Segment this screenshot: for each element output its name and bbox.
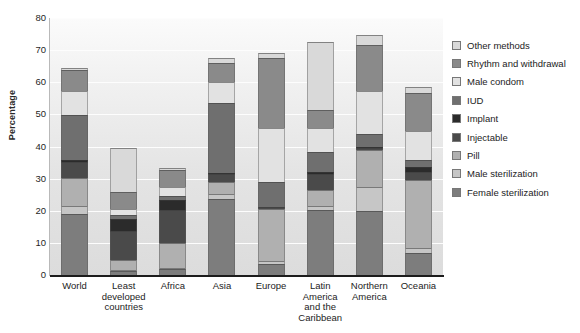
bar-segment xyxy=(307,110,334,128)
bar-segment xyxy=(159,170,186,187)
bar-stack xyxy=(61,18,88,275)
bar-segment xyxy=(405,172,432,180)
legend-label: Pill xyxy=(467,150,480,161)
legend-swatch-icon xyxy=(452,96,461,105)
bar-segment xyxy=(61,214,88,275)
legend-swatch-icon xyxy=(452,133,461,142)
gridline xyxy=(50,211,443,212)
y-tick-label: 70 xyxy=(6,44,46,55)
bar-segment xyxy=(208,103,235,172)
legend-swatch-icon xyxy=(452,169,461,178)
bar-stack xyxy=(307,18,334,275)
bar-stack xyxy=(110,18,137,275)
y-tick-label: 20 xyxy=(6,205,46,216)
bar-segment xyxy=(405,131,432,160)
y-tick-label: 10 xyxy=(6,237,46,248)
bar-segment xyxy=(208,194,235,199)
bar-segment xyxy=(159,268,186,269)
bar-segment xyxy=(307,172,334,174)
x-axis-line xyxy=(50,275,444,277)
y-tick-label: 50 xyxy=(6,108,46,119)
y-tick-label: 80 xyxy=(6,12,46,23)
bar-segment xyxy=(110,270,137,271)
legend-swatch-icon xyxy=(452,59,461,68)
y-tick-label: 30 xyxy=(6,173,46,184)
y-axis-line xyxy=(49,18,50,276)
bar-segment xyxy=(61,178,88,206)
legend-label: Female sterilization xyxy=(467,187,549,198)
bar-segment xyxy=(356,148,383,150)
bar-segment xyxy=(110,192,137,208)
bar-segment xyxy=(356,211,383,275)
stacked-bar-chart: Percentage 01020304050607080 WorldLeastd… xyxy=(0,0,580,333)
bar-segment xyxy=(307,128,334,152)
legend-item[interactable]: Male condom xyxy=(452,73,578,91)
bar-segment xyxy=(405,180,432,247)
bar-segment xyxy=(405,160,432,167)
legend-item[interactable]: Injectable xyxy=(452,128,578,146)
bar-segment xyxy=(356,35,383,45)
bar-segment xyxy=(258,207,285,209)
bar-segment xyxy=(110,215,137,219)
legend-label: IUD xyxy=(467,95,483,106)
gridline xyxy=(50,18,443,19)
x-tick-label: Oceania xyxy=(373,281,463,292)
gridline xyxy=(50,114,443,115)
legend-item[interactable]: Rhythm and withdrawal xyxy=(452,54,578,72)
bar-segment xyxy=(208,173,235,174)
legend-label: Other methods xyxy=(467,40,530,51)
bar-stack xyxy=(356,18,383,275)
bar-stack xyxy=(159,18,186,275)
legend-swatch-icon xyxy=(452,188,461,197)
legend-swatch-icon xyxy=(452,151,461,160)
bar-segment xyxy=(258,209,285,261)
bar-segment xyxy=(61,160,88,163)
bar-segment xyxy=(307,174,334,191)
bar-stack xyxy=(208,18,235,275)
bar-segment xyxy=(405,248,432,253)
legend-item[interactable]: Other methods xyxy=(452,36,578,54)
bar-segment xyxy=(258,261,285,264)
legend-label: Male sterilization xyxy=(467,168,538,179)
gridline xyxy=(50,179,443,180)
bar-segment xyxy=(307,206,334,210)
y-tick-label: 60 xyxy=(6,76,46,87)
bar-segment xyxy=(159,243,186,268)
bar-segment xyxy=(405,87,432,92)
bar-segment xyxy=(258,182,285,207)
bar-segment xyxy=(208,174,235,183)
legend-label: Implant xyxy=(467,113,498,124)
bar-segment xyxy=(307,42,334,110)
bar-stack xyxy=(405,18,432,275)
bar-segment xyxy=(356,45,383,91)
bar-segment xyxy=(159,196,186,201)
bar-segment xyxy=(258,264,285,275)
bar-segment xyxy=(307,190,334,206)
gridline xyxy=(50,82,443,83)
legend-item[interactable]: IUD xyxy=(452,91,578,109)
legend-swatch-icon xyxy=(452,114,461,123)
plot-area xyxy=(50,18,443,275)
legend-label: Male condom xyxy=(467,76,524,87)
bar-segment xyxy=(405,253,432,275)
legend-item[interactable]: Pill xyxy=(452,146,578,164)
bar-segment xyxy=(61,162,88,178)
bar-segment xyxy=(405,93,432,132)
bar-segment xyxy=(356,187,383,211)
gridline xyxy=(50,50,443,51)
bar-segment xyxy=(258,58,285,129)
bar-segment xyxy=(61,68,88,70)
legend-item[interactable]: Male sterilization xyxy=(452,165,578,183)
legend-label: Rhythm and withdrawal xyxy=(467,58,566,69)
y-tick-label: 40 xyxy=(6,141,46,152)
bar-segment xyxy=(61,70,88,91)
bar-segment xyxy=(110,148,137,192)
bar-segment xyxy=(258,53,285,58)
legend-item[interactable]: Implant xyxy=(452,110,578,128)
bar-segment xyxy=(356,134,383,147)
bar-segment xyxy=(356,91,383,134)
legend-item[interactable]: Female sterilization xyxy=(452,183,578,201)
bar-segment xyxy=(208,199,235,275)
bar-segment xyxy=(110,231,137,260)
bar-segment xyxy=(159,200,186,210)
